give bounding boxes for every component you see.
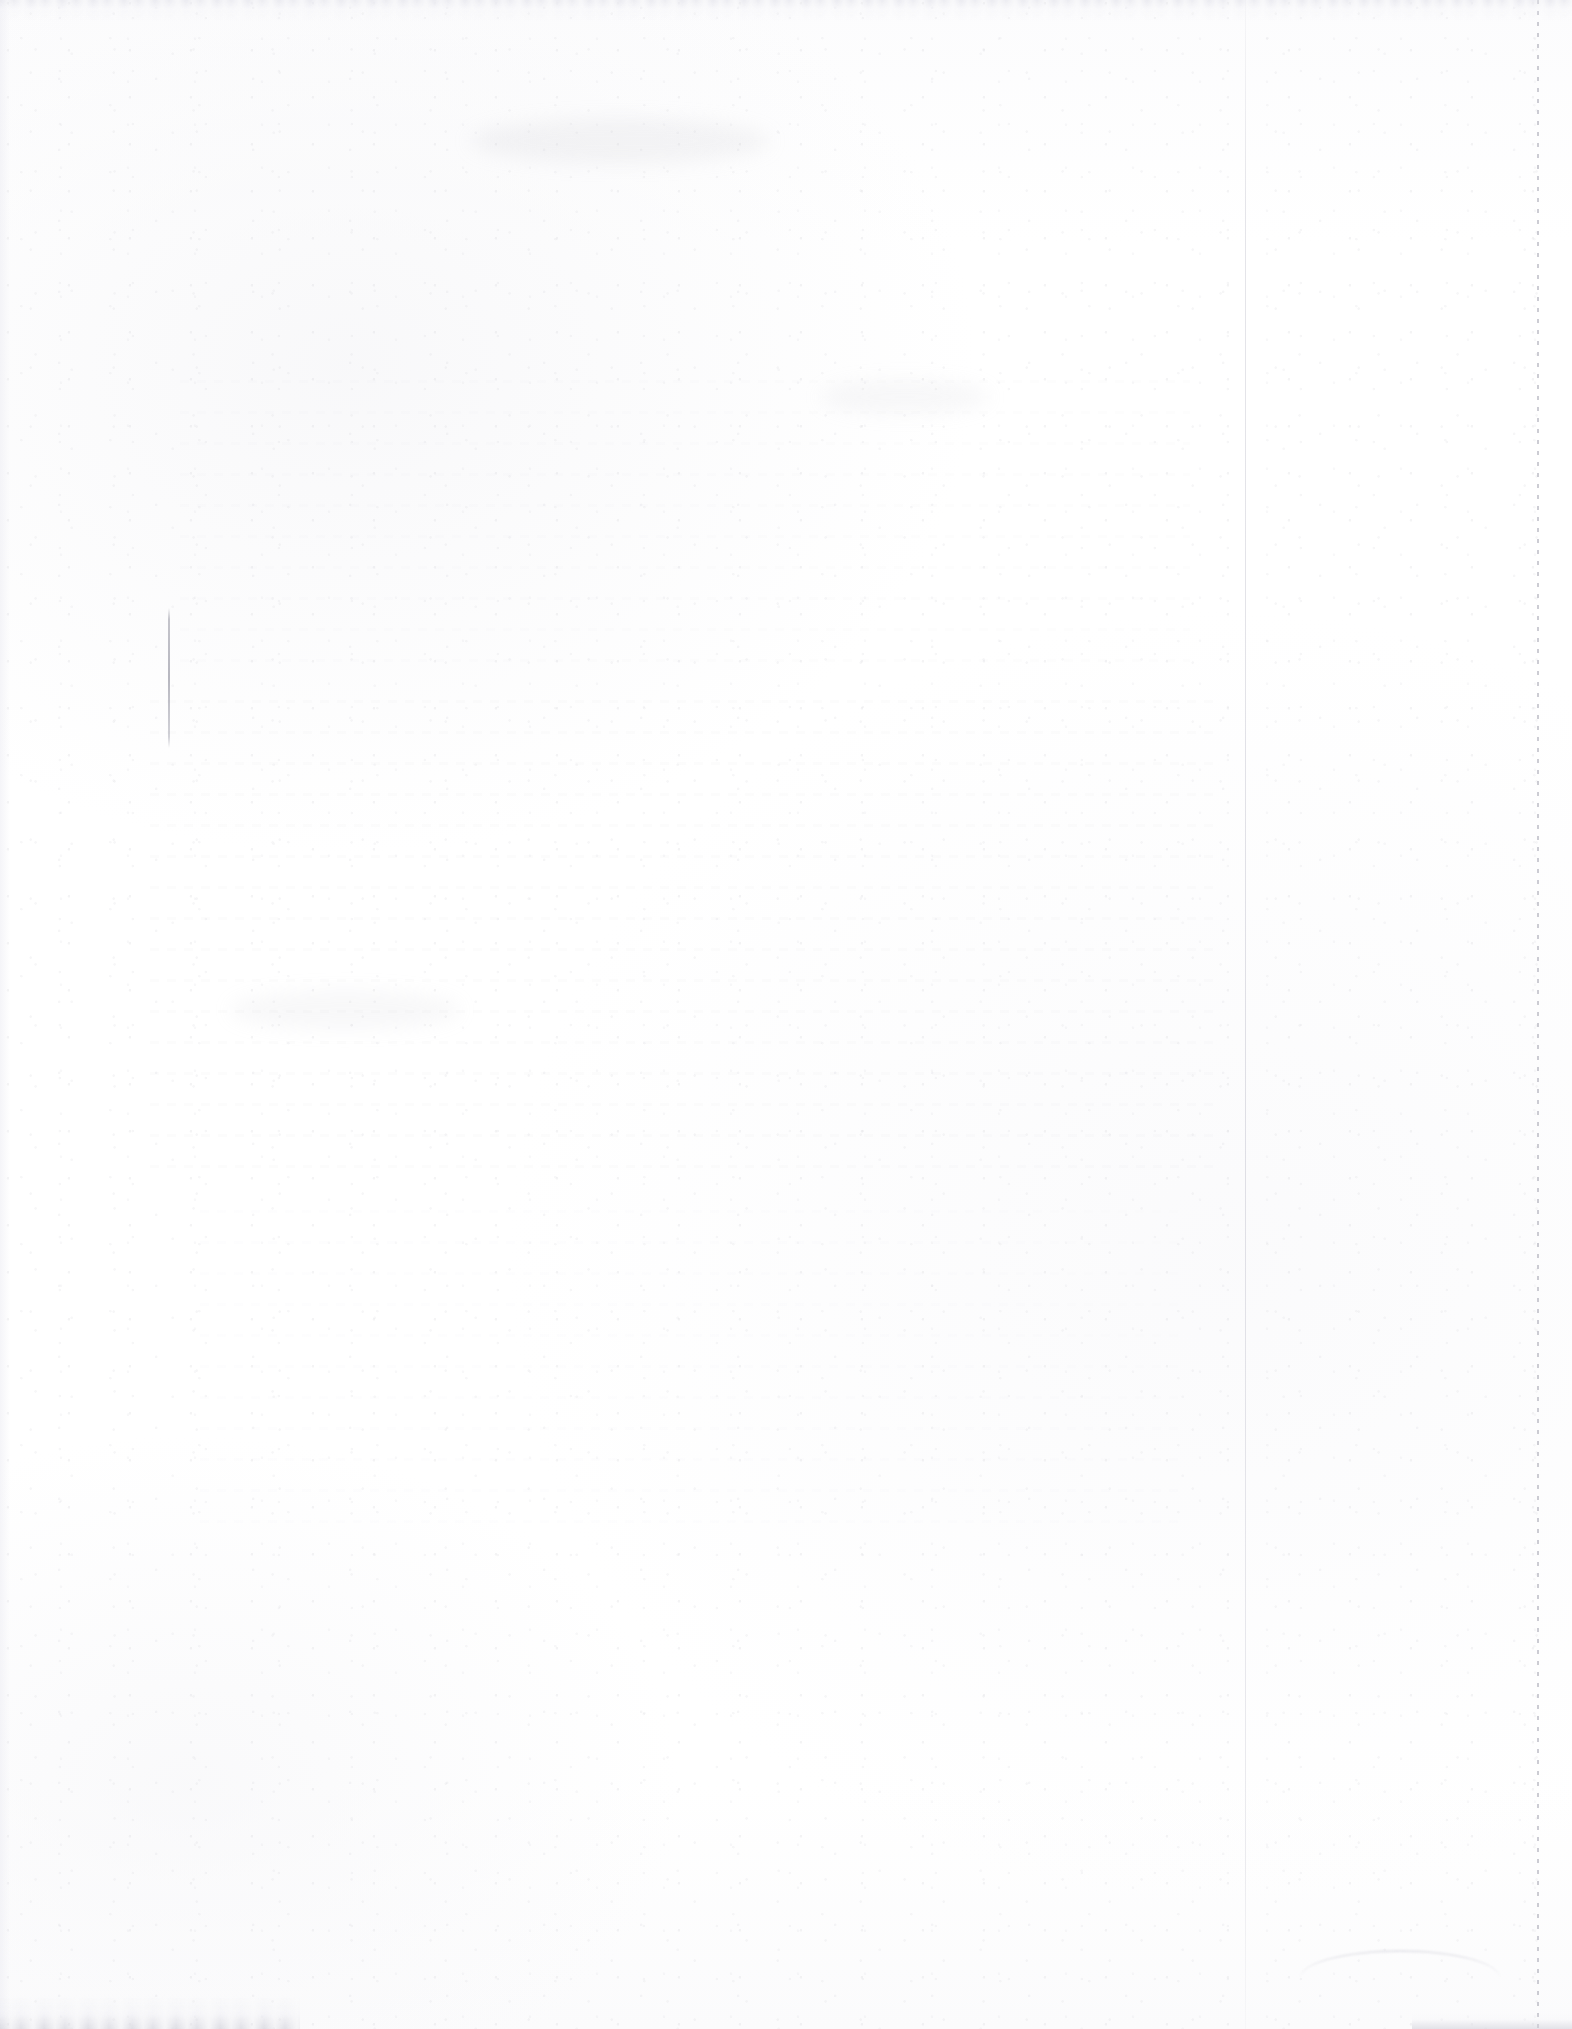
scanned-page: Blank scanned document page with no legi… bbox=[0, 0, 1572, 2029]
paper-surface bbox=[0, 0, 1572, 2029]
